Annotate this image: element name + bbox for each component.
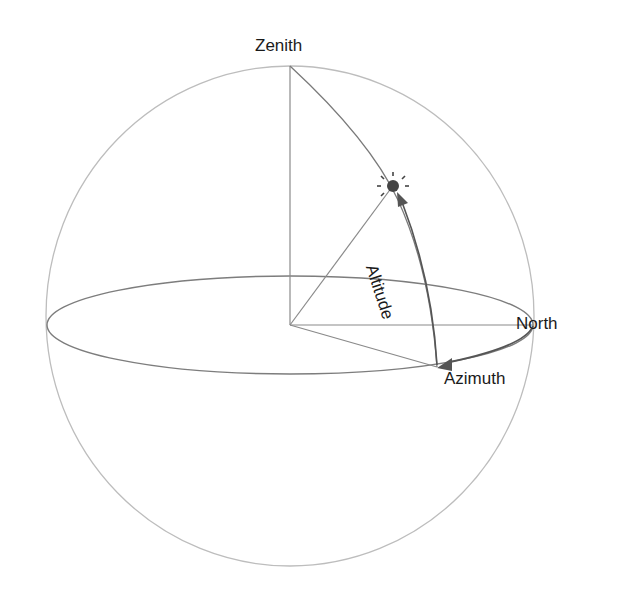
sun-icon: [377, 172, 409, 196]
zenith-label: Zenith: [255, 36, 302, 56]
altitude-arrowhead: [397, 192, 408, 207]
azimuth-label: Azimuth: [444, 369, 505, 389]
vertical-circle-arc: [290, 66, 437, 367]
north-label: North: [516, 314, 558, 334]
azimuth-direction-line: [290, 325, 437, 367]
celestial-sphere-diagram: [0, 0, 634, 592]
